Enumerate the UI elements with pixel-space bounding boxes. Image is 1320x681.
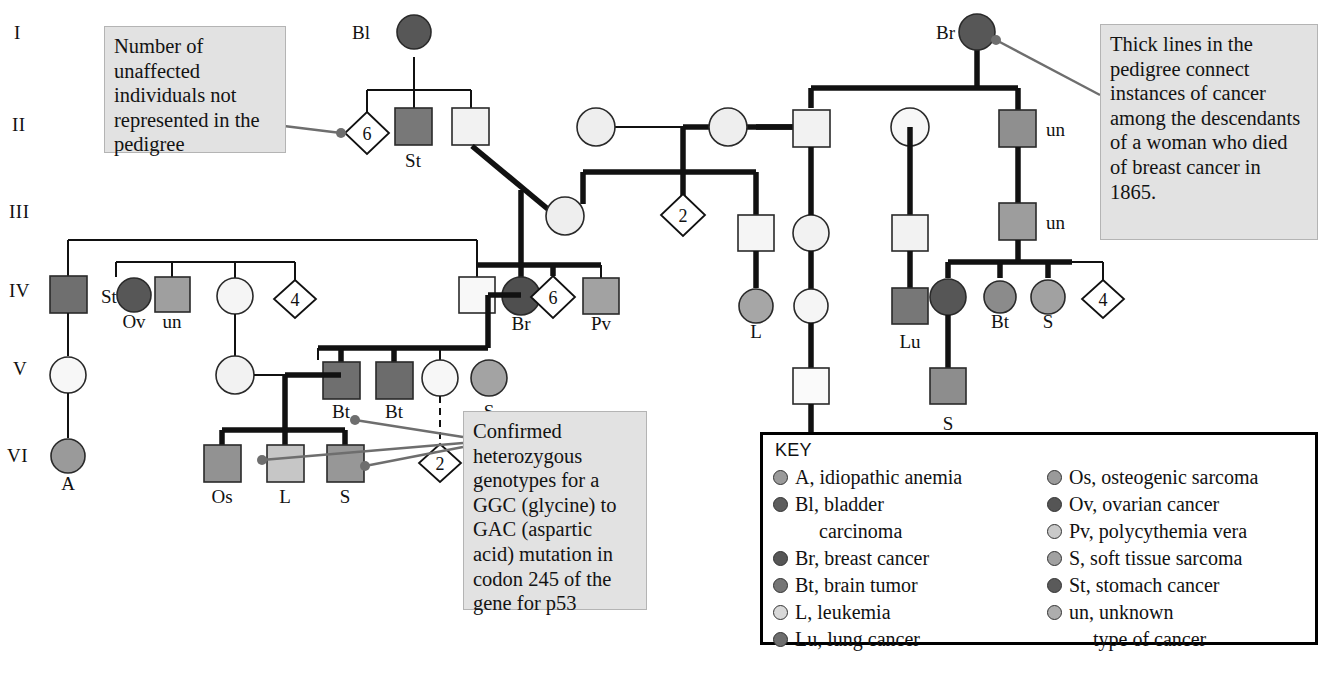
individual-bt2[interactable]	[376, 362, 413, 399]
label-bt-right: Bt	[991, 311, 1010, 332]
diamond-6a-count: 6	[363, 124, 372, 144]
individual-s-right[interactable]	[1031, 280, 1065, 314]
key-swatch-s	[1047, 551, 1062, 566]
individual-v-f-mid[interactable]	[216, 356, 254, 394]
individual-v-f-right[interactable]	[422, 360, 458, 396]
individual-iv-f-center[interactable]	[794, 289, 828, 323]
key-label-un-cont: type of cancer	[1047, 627, 1307, 654]
individual-iii-female[interactable]	[546, 197, 584, 235]
individual-s-vi[interactable]	[327, 445, 364, 482]
individual-ii-f2[interactable]	[709, 108, 747, 146]
label-st-ii: St	[405, 150, 422, 171]
label-un-iv: un	[163, 311, 183, 332]
label-br-gen4: Br	[512, 313, 532, 334]
key-label-lu: Lu, lung cancer	[795, 627, 920, 652]
key-item: Br, breast cancer	[773, 546, 1033, 573]
individual-s-v[interactable]	[471, 360, 507, 396]
diamond-2a-count: 2	[679, 206, 688, 226]
individual-bt-right[interactable]	[984, 281, 1016, 313]
individual-ov[interactable]	[117, 278, 151, 312]
key-item: Lu, lung cancer	[773, 627, 1033, 654]
individual-iii-m1[interactable]	[738, 215, 774, 251]
diamond-6b-count: 6	[549, 288, 558, 308]
key-item: un, unknown	[1047, 600, 1307, 627]
individual-ii-male-square[interactable]	[452, 108, 489, 145]
individual-s-v-right[interactable]	[930, 368, 966, 404]
key-label-l: L, leukemia	[795, 600, 891, 625]
individual-ii-f1[interactable]	[577, 108, 615, 146]
individual-un-a[interactable]	[999, 110, 1036, 147]
key-swatch-bl	[773, 497, 788, 512]
individual-iii-f-center[interactable]	[793, 215, 829, 251]
individual-pv[interactable]	[583, 278, 619, 314]
label-l-iv: L	[750, 321, 762, 342]
label-st-iv: St	[101, 286, 118, 307]
individual-a[interactable]	[51, 439, 85, 473]
individual-un-b[interactable]	[999, 203, 1036, 240]
individual-br-iv[interactable]	[930, 279, 966, 315]
key-item: Os, osteogenic sarcoma	[1047, 465, 1307, 492]
key-swatch-pv	[1047, 524, 1062, 539]
key-label-a: A, idiopathic anemia	[795, 465, 962, 490]
individual-os[interactable]	[204, 445, 241, 482]
label-bl: Bl	[352, 22, 370, 43]
family-bl: 6 Bl St	[345, 15, 489, 171]
key-item: A, idiopathic anemia	[773, 465, 1033, 492]
key-swatch-st	[1047, 578, 1062, 593]
individual-l-vi[interactable]	[267, 445, 304, 482]
label-un-a: un	[1046, 119, 1066, 140]
key-label-bl: Bl, bladder	[795, 492, 884, 517]
key-label-st: St, stomach cancer	[1069, 573, 1220, 598]
diamond-4a-count: 4	[291, 290, 300, 310]
individual-un-iv[interactable]	[155, 277, 190, 312]
key-swatch-ov	[1047, 497, 1062, 512]
key-label-pv: Pv, polycythemia vera	[1069, 519, 1247, 544]
figure-caption	[0, 658, 1320, 681]
callout-unaffected: Number of unaffected individuals not rep…	[104, 26, 286, 153]
key-item: S, soft tissue sarcoma	[1047, 546, 1307, 573]
label-s-right: S	[1043, 311, 1054, 332]
key-item: Bl, bladder	[773, 492, 1033, 519]
diamond-4b-count: 4	[1099, 290, 1108, 310]
individual-l-iv[interactable]	[739, 289, 773, 323]
key-swatch-bt	[773, 578, 788, 593]
key-label-bl-cont: carcinoma	[773, 519, 1033, 546]
key-item: Bt, brain tumor	[773, 573, 1033, 600]
label-bt1: Bt	[332, 401, 351, 422]
key-label-bt: Bt, brain tumor	[795, 573, 918, 598]
label-lu: Lu	[899, 331, 921, 352]
individual-v-m-center[interactable]	[793, 368, 829, 404]
individual-br-gen1[interactable]	[959, 14, 995, 50]
individual-bt1[interactable]	[323, 362, 360, 399]
key-label-ov: Ov, ovarian cancer	[1069, 492, 1219, 517]
key-item: St, stomach cancer	[1047, 573, 1307, 600]
key-swatch-lu	[773, 632, 788, 647]
label-bt2: Bt	[385, 401, 404, 422]
callout-thicklines: Thick lines in the pedigree connect inst…	[1100, 24, 1318, 240]
key-swatch-os	[1047, 470, 1062, 485]
label-pv: Pv	[591, 313, 612, 334]
key-label-s: S, soft tissue sarcoma	[1069, 546, 1242, 571]
key-item: L, leukemia	[773, 600, 1033, 627]
individual-iv-f-left[interactable]	[217, 278, 253, 314]
label-l-vi: L	[279, 486, 291, 507]
leader-lines	[257, 35, 1100, 471]
individual-ii-male-center[interactable]	[793, 110, 830, 147]
label-un-b: un	[1046, 212, 1066, 233]
key-item: Ov, ovarian cancer	[1047, 492, 1307, 519]
label-ov: Ov	[122, 311, 146, 332]
individual-st-iv[interactable]	[50, 276, 87, 313]
individual-v-f-left[interactable]	[50, 357, 86, 393]
individual-iii-m-lu[interactable]	[892, 215, 928, 251]
individual-lu[interactable]	[892, 288, 928, 324]
key-column-right: Os, osteogenic sarcoma Ov, ovarian cance…	[1047, 465, 1307, 654]
key-box: KEY A, idiopathic anemia Bl, bladder car…	[760, 432, 1318, 645]
individual-bl-circle[interactable]	[397, 15, 431, 49]
label-a: A	[61, 473, 75, 494]
key-label-os: Os, osteogenic sarcoma	[1069, 465, 1258, 490]
label-br-gen1: Br	[936, 22, 956, 43]
individual-st-square[interactable]	[395, 108, 432, 145]
key-label-br: Br, breast cancer	[795, 546, 929, 571]
label-os: Os	[211, 486, 232, 507]
label-s-v-right: S	[943, 413, 954, 434]
